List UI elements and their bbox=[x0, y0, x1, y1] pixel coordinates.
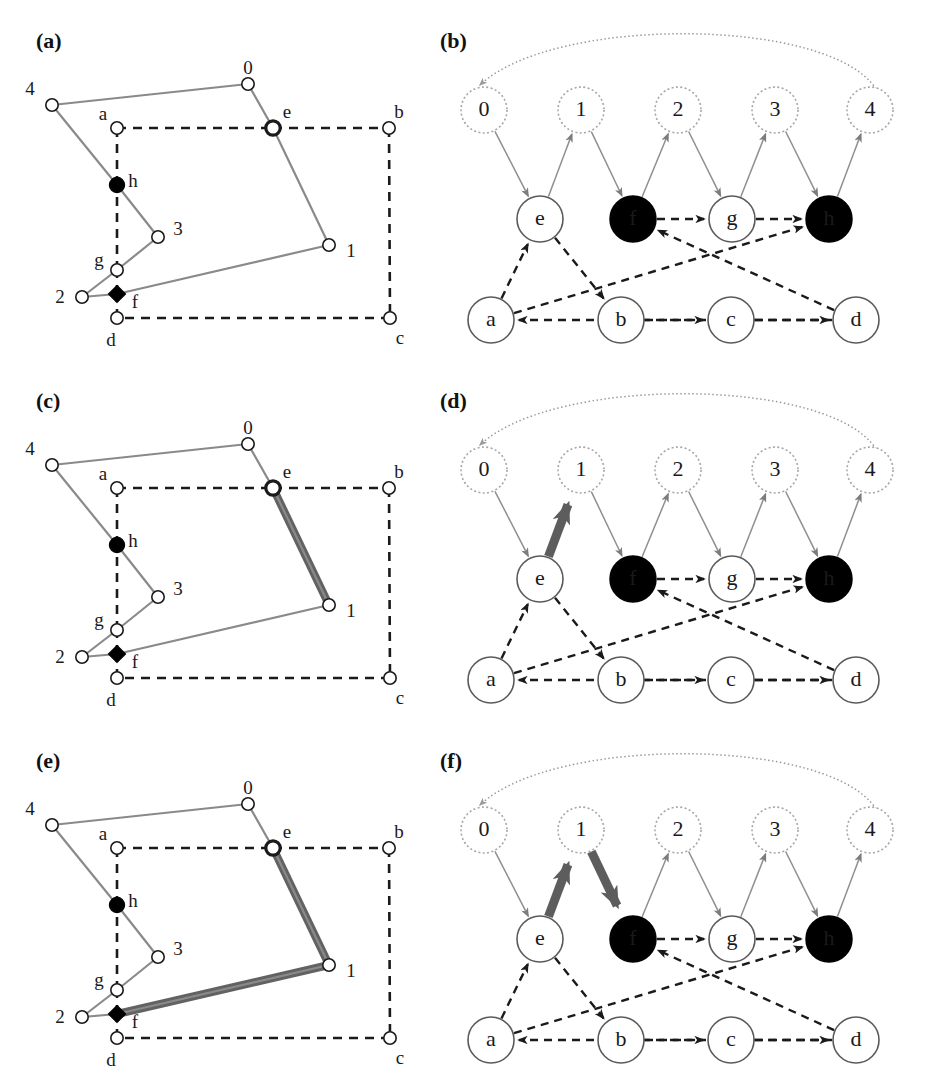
graph-node-label: b bbox=[616, 1026, 627, 1051]
graph-node-3[interactable]: 3 bbox=[752, 807, 798, 853]
graph-node-e[interactable]: e bbox=[517, 196, 563, 242]
polygon-vertex-g[interactable]: g bbox=[94, 609, 123, 636]
graph-node-e[interactable]: e bbox=[517, 556, 563, 602]
polygon-vertex-a[interactable]: a bbox=[99, 823, 123, 854]
graph-node-4[interactable]: 4 bbox=[847, 447, 893, 493]
graph-node-1[interactable]: 1 bbox=[558, 807, 604, 853]
panel-d: (d) 01234efghabcd bbox=[440, 360, 925, 720]
polygon-vertex-b[interactable]: b bbox=[383, 821, 404, 854]
graph-node-label: h bbox=[824, 925, 835, 950]
graph-node-b[interactable]: b bbox=[598, 297, 644, 343]
polygon-vertex-c[interactable]: c bbox=[384, 312, 404, 349]
polygon-vertex-4[interactable]: 4 bbox=[25, 798, 58, 831]
polygon-vertex-d[interactable]: d bbox=[106, 672, 123, 711]
graph-node-3[interactable]: 3 bbox=[752, 87, 798, 133]
graph-node-4[interactable]: 4 bbox=[847, 87, 893, 133]
polygon-solid-edge bbox=[117, 597, 158, 630]
polygon-vertex-3[interactable]: 3 bbox=[152, 938, 183, 963]
vertex-marker-open bbox=[111, 842, 123, 854]
graph-node-label: c bbox=[726, 666, 736, 691]
polygon-vertex-3[interactable]: 3 bbox=[152, 218, 183, 243]
polygon-solid-edge bbox=[52, 444, 248, 465]
polygon-vertex-2[interactable]: 2 bbox=[55, 1006, 88, 1027]
graph-node-c[interactable]: c bbox=[708, 657, 754, 703]
graph-node-1[interactable]: 1 bbox=[558, 87, 604, 133]
graph-node-g[interactable]: g bbox=[709, 556, 755, 602]
polygon-vertex-0[interactable]: 0 bbox=[242, 777, 254, 810]
graph-node-f[interactable]: f bbox=[610, 196, 656, 242]
polygon-vertex-e[interactable]: e bbox=[266, 461, 291, 495]
graph-node-2[interactable]: 2 bbox=[655, 447, 701, 493]
graph-node-1[interactable]: 1 bbox=[558, 447, 604, 493]
graph-node-g[interactable]: g bbox=[709, 196, 755, 242]
polygon-vertex-3[interactable]: 3 bbox=[152, 578, 183, 603]
polygon-solid-edge bbox=[117, 245, 329, 294]
polygon-vertex-b[interactable]: b bbox=[383, 101, 404, 134]
graph-node-b[interactable]: b bbox=[598, 657, 644, 703]
polygon-vertex-c[interactable]: c bbox=[384, 672, 404, 709]
graph-node-e[interactable]: e bbox=[517, 916, 563, 962]
graph-node-label: d bbox=[851, 1026, 862, 1051]
graph-node-0[interactable]: 0 bbox=[461, 87, 507, 133]
polygon-vertex-a[interactable]: a bbox=[99, 103, 123, 134]
polygon-solid-edge bbox=[52, 804, 248, 825]
graph-thin-edge bbox=[741, 854, 766, 916]
graph-node-4[interactable]: 4 bbox=[847, 807, 893, 853]
polygon-vertex-2[interactable]: 2 bbox=[55, 286, 88, 307]
polygon-vertex-1[interactable]: 1 bbox=[323, 239, 356, 262]
polygon-solid-edge bbox=[52, 465, 117, 545]
polygon-vertex-g[interactable]: g bbox=[94, 249, 123, 276]
polygon-vertex-b[interactable]: b bbox=[383, 461, 404, 494]
graph-thin-edge bbox=[741, 494, 766, 556]
polygon-vertex-d[interactable]: d bbox=[106, 1032, 123, 1071]
graph-node-3[interactable]: 3 bbox=[752, 447, 798, 493]
graph-node-label: 4 bbox=[865, 456, 876, 481]
graph-node-label: c bbox=[726, 1026, 736, 1051]
graph-node-g[interactable]: g bbox=[709, 916, 755, 962]
polygon-vertex-0[interactable]: 0 bbox=[242, 57, 254, 90]
polygon-vertex-e[interactable]: e bbox=[266, 821, 291, 855]
vertex-marker-open bbox=[383, 482, 395, 494]
polygon-vertex-c[interactable]: c bbox=[384, 1032, 404, 1069]
polygon-vertex-e[interactable]: e bbox=[266, 101, 291, 135]
vertex-marker-open bbox=[384, 312, 396, 324]
vertex-marker-open bbox=[111, 482, 123, 494]
polygon-vertex-d[interactable]: d bbox=[106, 312, 123, 351]
graph-node-label: b bbox=[616, 306, 627, 331]
polygon-vertex-label: a bbox=[99, 103, 108, 124]
graph-node-c[interactable]: c bbox=[708, 297, 754, 343]
graph-node-h[interactable]: h bbox=[806, 556, 852, 602]
graph-node-b[interactable]: b bbox=[598, 1017, 644, 1063]
polygon-vertex-a[interactable]: a bbox=[99, 463, 123, 494]
graph-node-2[interactable]: 2 bbox=[655, 87, 701, 133]
graph-node-f[interactable]: f bbox=[610, 556, 656, 602]
graph-node-f[interactable]: f bbox=[610, 916, 656, 962]
graph-node-d[interactable]: d bbox=[833, 1017, 879, 1063]
polygon-vertex-1[interactable]: 1 bbox=[323, 959, 356, 982]
polygon-vertex-h[interactable]: h bbox=[110, 890, 139, 912]
vertex-marker-open bbox=[383, 122, 395, 134]
polygon-vertex-2[interactable]: 2 bbox=[55, 646, 88, 667]
polygon-vertex-g[interactable]: g bbox=[94, 969, 123, 996]
polygon-vertex-1[interactable]: 1 bbox=[323, 599, 356, 622]
polygon-vertex-h[interactable]: h bbox=[110, 170, 139, 192]
polygon-vertex-0[interactable]: 0 bbox=[242, 417, 254, 450]
polygon-vertex-4[interactable]: 4 bbox=[25, 78, 58, 111]
panel-label-b: (b) bbox=[440, 28, 467, 54]
graph-node-c[interactable]: c bbox=[708, 1017, 754, 1063]
graph-node-a[interactable]: a bbox=[468, 657, 514, 703]
vertex-marker-open bbox=[46, 99, 58, 111]
graph-node-d[interactable]: d bbox=[833, 297, 879, 343]
graph-node-a[interactable]: a bbox=[468, 297, 514, 343]
graph-node-d[interactable]: d bbox=[833, 657, 879, 703]
graph-node-a[interactable]: a bbox=[468, 1017, 514, 1063]
graph-node-2[interactable]: 2 bbox=[655, 807, 701, 853]
graph-node-0[interactable]: 0 bbox=[461, 447, 507, 493]
graph-node-h[interactable]: h bbox=[806, 916, 852, 962]
polygon-vertex-h[interactable]: h bbox=[110, 530, 139, 552]
polygon-vertex-label: d bbox=[106, 1049, 116, 1070]
graph-node-0[interactable]: 0 bbox=[461, 807, 507, 853]
polygon-vertex-4[interactable]: 4 bbox=[25, 438, 58, 471]
graph-node-h[interactable]: h bbox=[806, 196, 852, 242]
graph-node-label: 3 bbox=[770, 456, 781, 481]
